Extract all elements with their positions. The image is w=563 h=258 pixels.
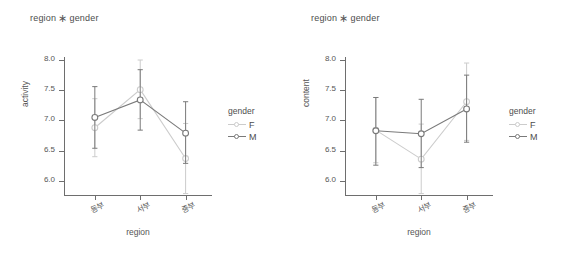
series-layer (345, 57, 493, 196)
legend-key-icon (509, 131, 527, 143)
panel-title: region∗gender (30, 13, 99, 23)
y-tick: 7.0 (59, 120, 64, 121)
panel-activity: region∗gender activity region 8.07.57.06… (0, 0, 281, 258)
data-point-marker (373, 128, 379, 134)
y-tick: 8.0 (340, 60, 345, 61)
legend-marker-icon (515, 122, 520, 127)
y-tick: 6.0 (59, 181, 64, 182)
y-tick-label: 7.5 (44, 84, 55, 93)
y-tick-label: 6.5 (325, 145, 336, 154)
y-tick-label: 8.0 (44, 54, 55, 63)
data-point-marker (137, 97, 143, 103)
data-point-marker (183, 130, 189, 136)
plot-area: activity region 8.07.57.06.56.0동부서부중부 (64, 57, 212, 196)
y-tick-label: 8.0 (325, 54, 336, 63)
series-layer (64, 57, 212, 196)
x-axis-title: region (345, 227, 493, 237)
legend-item-M[interactable]: M (509, 131, 538, 143)
y-tick: 7.5 (59, 90, 64, 91)
plot-area: content region 8.07.57.06.56.0동부서부중부 (345, 57, 493, 196)
x-tick-label: 동부 (89, 199, 106, 214)
legend-key-icon (228, 119, 246, 131)
legend-marker-icon (234, 122, 239, 127)
legend-key-icon (509, 119, 527, 131)
y-tick: 6.5 (340, 151, 345, 152)
data-point-marker (418, 131, 424, 137)
x-tick-label: 서부 (134, 199, 151, 214)
panel-title-left: region (311, 13, 337, 23)
y-tick-label: 7.0 (325, 114, 336, 123)
y-tick-label: 7.5 (325, 84, 336, 93)
x-tick: 동부 (95, 196, 96, 200)
y-tick-label: 7.0 (44, 114, 55, 123)
x-tick: 중부 (186, 196, 187, 200)
legend-marker-icon (234, 134, 239, 139)
legend-key-icon (228, 131, 246, 143)
y-tick-label: 6.0 (325, 175, 336, 184)
legend-label: F (249, 120, 255, 130)
x-tick: 서부 (140, 196, 141, 200)
legend-label: F (530, 120, 536, 130)
legend: gender FM (509, 106, 538, 143)
y-axis-title: activity (20, 81, 30, 107)
figure-root: region∗gender activity region 8.07.57.06… (0, 0, 563, 258)
data-point-marker (464, 106, 470, 112)
series-M (92, 70, 189, 164)
x-tick-label: 중부 (180, 199, 197, 214)
legend-marker-icon (515, 134, 520, 139)
panel-content: region∗gender content region 8.07.57.06.… (281, 0, 562, 258)
data-point-marker (92, 115, 98, 121)
legend-item-F[interactable]: F (509, 119, 538, 131)
x-axis-title: region (64, 227, 212, 237)
y-tick-label: 6.0 (44, 175, 55, 184)
series-M (373, 75, 470, 167)
legend-item-M[interactable]: M (228, 131, 257, 143)
y-tick: 7.0 (340, 120, 345, 121)
panel-title-right: gender (350, 13, 379, 23)
x-tick-label: 중부 (461, 199, 478, 214)
legend-title: gender (228, 106, 257, 116)
panel-title-right: gender (69, 13, 98, 23)
panel-title: region∗gender (311, 13, 380, 23)
y-tick: 6.0 (340, 181, 345, 182)
x-tick-label: 동부 (370, 199, 387, 214)
y-tick: 6.5 (59, 151, 64, 152)
y-tick: 7.5 (340, 90, 345, 91)
y-axis-title: content (301, 79, 311, 107)
legend-item-F[interactable]: F (228, 119, 257, 131)
legend: gender FM (228, 106, 257, 143)
legend-label: M (249, 132, 257, 142)
x-tick: 동부 (376, 196, 377, 200)
legend-title: gender (509, 106, 538, 116)
x-tick-label: 서부 (415, 199, 432, 214)
y-tick: 8.0 (59, 60, 64, 61)
panel-title-left: region (30, 13, 56, 23)
x-tick: 중부 (467, 196, 468, 200)
x-tick: 서부 (421, 196, 422, 200)
legend-label: M (530, 132, 538, 142)
y-tick-label: 6.5 (44, 145, 55, 154)
